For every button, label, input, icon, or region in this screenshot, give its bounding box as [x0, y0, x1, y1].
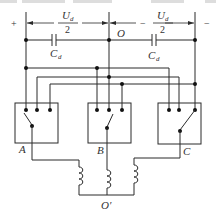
half-voltage-right-label: U d 2 — [157, 9, 169, 35]
switch-blade — [24, 113, 32, 125]
svg-text:2: 2 — [160, 24, 165, 35]
circuit-diagram: + − U d 2 U d 2 − O C d C d — [0, 0, 216, 217]
switch-b-label: B — [97, 144, 104, 156]
capacitor-line — [24, 34, 197, 46]
junction-dot — [107, 38, 111, 42]
svg-text:C: C — [50, 47, 58, 59]
svg-text:d: d — [70, 15, 74, 23]
neutral-o-prime-label: O′ — [101, 199, 112, 211]
half-voltage-left-label: U d 2 — [62, 9, 74, 35]
svg-text:d: d — [58, 53, 62, 61]
switch-c-label: C — [183, 145, 191, 157]
svg-text:C: C — [148, 49, 156, 61]
switch-box-c — [158, 103, 201, 144]
junction-dot — [193, 38, 197, 42]
capacitor-left-label: C d — [50, 47, 62, 61]
inductor-a — [79, 167, 83, 195]
inductor-c — [134, 165, 138, 195]
svg-text:2: 2 — [65, 24, 70, 35]
plus-terminal-label: + — [11, 18, 17, 29]
capacitor-right-label: C d — [148, 49, 160, 63]
switch-blade — [107, 114, 113, 127]
switch-box-a — [15, 103, 58, 143]
switch-a-label: A — [18, 143, 26, 155]
switch-box-b — [88, 103, 131, 143]
svg-text:d: d — [156, 55, 160, 63]
midpoint-o-label: O — [117, 27, 125, 39]
junction-dot — [24, 38, 28, 42]
minus-terminal-label: − — [204, 18, 210, 29]
dash-right-label: − — [140, 18, 146, 29]
switch-blade — [180, 110, 195, 130]
load-wiring — [32, 143, 180, 195]
svg-text:d: d — [165, 15, 169, 23]
inductor-b — [107, 170, 111, 195]
